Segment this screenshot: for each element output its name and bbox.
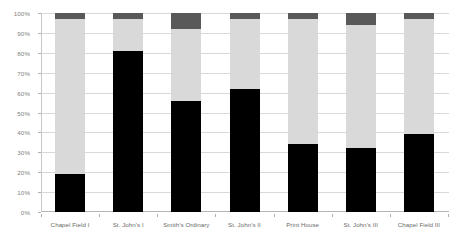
bar-segment[interactable] [113, 51, 143, 212]
bar-segment[interactable] [288, 19, 318, 144]
bar-segment[interactable] [404, 13, 434, 19]
y-axis: 0%10%20%30%40%50%60%70%80%90%100% [0, 0, 34, 246]
bar-segment[interactable] [288, 13, 318, 19]
bar-segment[interactable] [404, 19, 434, 134]
x-tick-mark [274, 214, 275, 217]
bar-segment[interactable] [288, 144, 318, 212]
x-category-label: Smith's Ordinary [163, 221, 209, 228]
y-tick-label: 80% [17, 49, 30, 56]
bar-segment[interactable] [346, 148, 376, 212]
x-tick-mark [448, 214, 449, 217]
bar-column[interactable] [55, 13, 85, 212]
x-tick-mark [215, 214, 216, 217]
bar-segment[interactable] [404, 134, 434, 212]
bar-column[interactable] [404, 13, 434, 212]
bar-segment[interactable] [171, 101, 201, 212]
bar-segment[interactable] [55, 174, 85, 212]
x-category-label: Print House [286, 221, 319, 228]
bar-segment[interactable] [230, 13, 260, 19]
bar-segment[interactable] [55, 19, 85, 174]
bar-segment[interactable] [230, 19, 260, 89]
y-tick-label: 10% [17, 189, 30, 196]
x-category-label: St. John's III [344, 221, 379, 228]
bar-segment[interactable] [346, 13, 376, 25]
bar-segment[interactable] [230, 89, 260, 212]
y-tick-mark [38, 212, 41, 213]
x-tick-mark [390, 214, 391, 217]
bar-column[interactable] [171, 13, 201, 212]
x-tick-mark [99, 214, 100, 217]
bar-segment[interactable] [113, 13, 143, 19]
bar-column[interactable] [113, 13, 143, 212]
bar-column[interactable] [230, 13, 260, 212]
x-tick-mark [332, 214, 333, 217]
y-tick-label: 90% [17, 29, 30, 36]
x-tick-mark [41, 214, 42, 217]
x-tick-mark [157, 214, 158, 217]
bar-segment[interactable] [171, 29, 201, 101]
y-tick-label: 50% [17, 109, 30, 116]
bar-column[interactable] [346, 13, 376, 212]
x-category-label: Chapel Field I [51, 221, 90, 228]
y-tick-label: 30% [17, 149, 30, 156]
y-tick-label: 60% [17, 89, 30, 96]
bar-column[interactable] [288, 13, 318, 212]
y-tick-label: 40% [17, 129, 30, 136]
x-axis: Chapel Field ISt. John's ISmith's Ordina… [41, 214, 448, 238]
x-category-label: Chapel Field III [398, 221, 440, 228]
x-category-label: St. John's I [113, 221, 144, 228]
bar-segment[interactable] [346, 25, 376, 148]
y-tick-label: 20% [17, 169, 30, 176]
y-tick-label: 100% [14, 10, 30, 17]
y-tick-label: 70% [17, 69, 30, 76]
bar-segment[interactable] [55, 13, 85, 19]
x-category-label: St. John's II [228, 221, 261, 228]
stacked-bar-chart: 0%10%20%30%40%50%60%70%80%90%100% Chapel… [0, 0, 453, 246]
bar-segment[interactable] [113, 19, 143, 51]
y-tick-label: 0% [21, 209, 30, 216]
bar-segment[interactable] [171, 13, 201, 29]
bars-layer [41, 13, 448, 212]
